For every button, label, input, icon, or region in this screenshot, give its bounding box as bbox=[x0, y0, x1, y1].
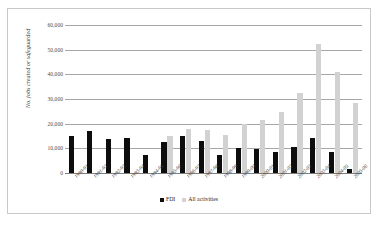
bar-group bbox=[306, 25, 325, 173]
bar-fdi bbox=[254, 149, 259, 173]
bar-fdi bbox=[273, 152, 278, 173]
legend-swatch-icon bbox=[182, 198, 186, 202]
legend-swatch-icon bbox=[160, 198, 164, 202]
bar-group bbox=[176, 25, 195, 173]
legend-item[interactable]: All activities bbox=[182, 197, 218, 203]
bar-fdi bbox=[69, 136, 74, 173]
bar-group bbox=[139, 25, 158, 173]
y-axis-tick-label: 30,000 bbox=[48, 96, 63, 102]
bar-group bbox=[251, 25, 270, 173]
bar-group bbox=[195, 25, 214, 173]
bar-all-activities bbox=[297, 93, 302, 173]
y-axis-tick-label: 0 bbox=[60, 170, 63, 176]
bar-group bbox=[343, 25, 362, 173]
y-axis-tick-labels: 60,00050,00040,00030,00020,00010,0000 bbox=[15, 25, 63, 173]
y-axis-tick-label: 50,000 bbox=[48, 47, 63, 53]
bar-fdi bbox=[236, 148, 241, 173]
y-axis-tick-label: 10,000 bbox=[48, 145, 63, 151]
bar-fdi bbox=[217, 155, 222, 174]
bar-all-activities bbox=[223, 135, 228, 173]
y-axis-tick-label: 20,000 bbox=[48, 121, 63, 127]
bar-all-activities bbox=[316, 44, 321, 173]
bar-group bbox=[158, 25, 177, 173]
bar-fdi bbox=[291, 147, 296, 173]
bar-fdi bbox=[143, 155, 148, 173]
legend-item[interactable]: FDI bbox=[160, 197, 175, 203]
bar-group bbox=[288, 25, 307, 173]
bar-all-activities bbox=[353, 103, 358, 173]
bar-fdi bbox=[347, 169, 352, 173]
bar-group bbox=[214, 25, 233, 173]
bar-all-activities bbox=[335, 72, 340, 173]
y-axis-tick-label: 40,000 bbox=[48, 71, 63, 77]
bar-all-activities bbox=[242, 124, 247, 173]
legend-label: All activities bbox=[188, 197, 218, 203]
plot-area bbox=[65, 25, 362, 173]
bar-group bbox=[325, 25, 344, 173]
bar-all-activities bbox=[279, 112, 284, 173]
bar-group bbox=[269, 25, 288, 173]
legend-label: FDI bbox=[166, 197, 175, 203]
chart-legend: FDIAll activities bbox=[8, 197, 370, 203]
bar-all-activities bbox=[205, 130, 210, 173]
bar-group bbox=[65, 25, 84, 173]
x-axis-tick-labels: 1990-911991-921992-931993-941994-951995-… bbox=[65, 175, 362, 209]
y-axis-tick-label: 60,000 bbox=[48, 22, 63, 28]
bar-series-container bbox=[65, 25, 362, 173]
bar-group bbox=[102, 25, 121, 173]
bar-group bbox=[232, 25, 251, 173]
chart-frame: No. jobs created or safeguarded 60,00050… bbox=[7, 8, 371, 214]
bar-group bbox=[84, 25, 103, 173]
bar-fdi bbox=[329, 152, 334, 173]
bar-all-activities bbox=[186, 129, 191, 173]
bar-group bbox=[121, 25, 140, 173]
bar-all-activities bbox=[260, 120, 265, 173]
